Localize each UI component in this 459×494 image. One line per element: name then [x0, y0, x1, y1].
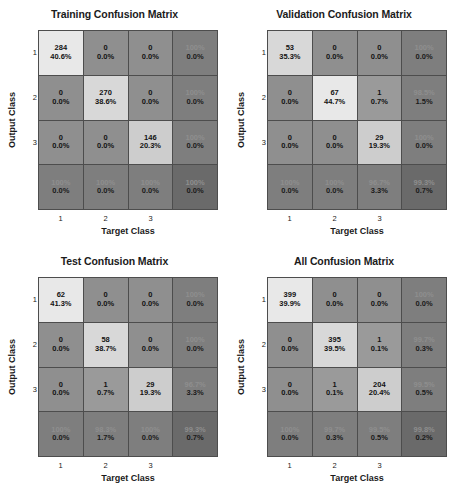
x-tick-label: 2	[83, 212, 128, 225]
cell-secondary-value: 0.0%	[142, 98, 159, 106]
y-axis-label: Output Class	[0, 277, 24, 457]
x-tick-label: 1	[267, 212, 312, 225]
cell-secondary-value: 0.0%	[416, 300, 433, 308]
y-axis-ticks: 123	[255, 30, 266, 210]
cell-secondary-value: 0.0%	[187, 53, 204, 61]
y-axis-label: Output Class	[229, 30, 253, 210]
y-tick-label: 3	[255, 120, 266, 165]
matrix-summary-cell: 99.3%0.7%	[402, 165, 446, 209]
cell-secondary-value: 0.0%	[187, 142, 204, 150]
y-tick-label: 3	[26, 367, 37, 412]
matrix-cell: 39539.5%	[313, 323, 357, 367]
y-axis-label: Output Class	[229, 277, 253, 457]
matrix-cell: 00.0%	[313, 278, 357, 322]
x-axis-label: Target Class	[267, 226, 447, 236]
x-axis-ticks: 123	[267, 212, 447, 225]
x-axis-ticks: 123	[267, 459, 447, 472]
cell-secondary-value: 0.0%	[52, 345, 69, 353]
x-axis-label: Target Class	[267, 473, 447, 483]
matrix-cells: 6241.3%00.0%00.0%100%0.0%00.0%5838.7%00.…	[38, 277, 218, 457]
matrix-cells: 39939.9%00.0%00.0%100%0.0%00.0%39539.5%1…	[267, 277, 447, 457]
matrix-summary-cell: 98.5%1.5%	[402, 76, 446, 120]
y-axis-label-text: Output Class	[236, 339, 246, 395]
y-axis-ticks: 123	[26, 30, 37, 210]
cell-secondary-value: 1.7%	[97, 434, 114, 442]
cell-secondary-value: 0.5%	[416, 389, 433, 397]
x-axis-label: Target Class	[38, 473, 218, 483]
cell-secondary-value: 0.7%	[416, 187, 433, 195]
cell-secondary-value: 0.0%	[326, 142, 343, 150]
cell-secondary-value: 0.0%	[416, 142, 433, 150]
cell-secondary-value: 19.3%	[140, 389, 161, 397]
cell-secondary-value: 0.7%	[371, 98, 388, 106]
cell-secondary-value: 0.0%	[281, 345, 298, 353]
matrix-cells: 28440.6%00.0%00.0%100%0.0%00.0%27038.6%0…	[38, 30, 218, 210]
matrix-cell: 00.0%	[268, 368, 312, 412]
matrix-summary-cell: 99.5%0.5%	[402, 368, 446, 412]
x-tick-label: 3	[357, 212, 402, 225]
matrix-summary-cell: 100%0.0%	[173, 31, 217, 75]
matrix-cells: 5335.3%00.0%00.0%100%0.0%00.0%6744.7%10.…	[267, 30, 447, 210]
cell-secondary-value: 0.0%	[281, 142, 298, 150]
cell-secondary-value: 0.5%	[371, 434, 388, 442]
confusion-matrix-panel: Validation Confusion MatrixOutput Class1…	[229, 0, 459, 247]
matrix-cell: 00.0%	[39, 121, 83, 165]
cell-secondary-value: 0.0%	[281, 434, 298, 442]
cell-secondary-value: 39.5%	[324, 345, 345, 353]
y-tick-label: 1	[255, 277, 266, 322]
matrix-cell: 00.0%	[129, 323, 173, 367]
matrix-cell: 00.0%	[39, 323, 83, 367]
confusion-matrix-figure: Training Confusion MatrixOutput Class123…	[0, 0, 459, 494]
matrix-grid: 28440.6%00.0%00.0%100%0.0%00.0%27038.6%0…	[38, 30, 218, 210]
confusion-matrix-panel: Training Confusion MatrixOutput Class123…	[0, 0, 229, 247]
matrix-cell: 20420.4%	[358, 368, 402, 412]
matrix-summary-cell: 100%0.0%	[402, 31, 446, 75]
cell-secondary-value: 44.7%	[324, 98, 345, 106]
cell-secondary-value: 0.0%	[142, 434, 159, 442]
matrix-cell: 10.1%	[313, 368, 357, 412]
y-tick-label: 2	[26, 322, 37, 367]
matrix-summary-cell: 99.3%0.7%	[173, 412, 217, 456]
matrix-summary-cell: 100%0.0%	[268, 412, 312, 456]
matrix-summary-cell: 100%0.0%	[402, 278, 446, 322]
y-axis-label-text: Output Class	[236, 92, 246, 148]
cell-secondary-value: 0.0%	[97, 53, 114, 61]
cell-secondary-value: 0.0%	[187, 98, 204, 106]
matrix-grid: 39939.9%00.0%00.0%100%0.0%00.0%39539.5%1…	[267, 277, 447, 457]
cell-secondary-value: 0.0%	[142, 187, 159, 195]
matrix-cell: 00.0%	[39, 368, 83, 412]
x-tick-label: 1	[267, 459, 312, 472]
cell-secondary-value: 40.6%	[50, 53, 71, 61]
matrix-summary-cell: 100%0.0%	[84, 165, 128, 209]
matrix-cell: 00.0%	[84, 121, 128, 165]
y-tick-label: 2	[26, 75, 37, 120]
matrix-cell: 00.0%	[268, 76, 312, 120]
y-tick-label: 3	[255, 367, 266, 412]
cell-secondary-value: 0.7%	[187, 434, 204, 442]
x-tick-label: 1	[38, 459, 83, 472]
cell-secondary-value: 0.0%	[281, 98, 298, 106]
x-tick-label: 3	[128, 212, 173, 225]
matrix-summary-cell: 100%0.0%	[39, 165, 83, 209]
panel-title: Test Confusion Matrix	[0, 255, 229, 267]
cell-secondary-value: 0.1%	[326, 389, 343, 397]
y-tick-label: 2	[255, 322, 266, 367]
matrix-cell: 00.0%	[313, 31, 357, 75]
y-axis-label-text: Output Class	[7, 339, 17, 395]
y-tick-label: 2	[255, 75, 266, 120]
x-axis-label: Target Class	[38, 226, 218, 236]
matrix-summary-cell: 96.7%3.3%	[173, 368, 217, 412]
matrix-summary-cell: 98.3%1.7%	[84, 412, 128, 456]
cell-secondary-value: 39.9%	[279, 300, 300, 308]
matrix-cell: 00.0%	[129, 31, 173, 75]
y-tick-label: 1	[26, 277, 37, 322]
cell-secondary-value: 35.3%	[279, 53, 300, 61]
cell-secondary-value: 0.0%	[52, 187, 69, 195]
y-tick-label: 1	[26, 30, 37, 75]
matrix-cell: 5335.3%	[268, 31, 312, 75]
cell-secondary-value: 38.7%	[95, 345, 116, 353]
matrix-cell: 00.0%	[268, 323, 312, 367]
cell-secondary-value: 3.3%	[187, 389, 204, 397]
y-axis-ticks: 123	[26, 277, 37, 457]
matrix-summary-cell: 99.8%0.2%	[402, 412, 446, 456]
